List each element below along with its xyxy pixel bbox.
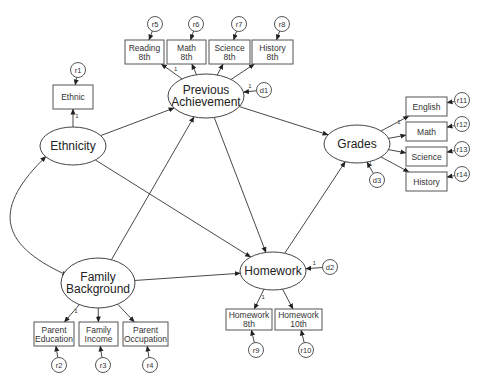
error-label-r4: r4	[147, 361, 154, 370]
observed-label-mathg-line: Math	[417, 127, 436, 137]
error-r4: r4	[143, 358, 158, 373]
disturbance-d1: d1	[257, 83, 272, 98]
observed-label-english: English	[413, 102, 441, 112]
observed-mathg: Math	[406, 122, 447, 141]
disturbance-label-text-d2: d2	[326, 263, 334, 272]
disturbance-label-text-d1: d1	[260, 86, 268, 95]
observed-label-finc: FamilyIncome	[85, 325, 113, 344]
error-path-r8	[277, 31, 280, 40]
disturbance-path-d2	[306, 268, 323, 269]
error-r11: r11	[455, 93, 470, 108]
observed-scienceg: Science	[406, 147, 447, 166]
loading-grades-to-historyg	[381, 157, 409, 172]
observed-reading8: Reading8th	[125, 40, 164, 64]
disturbance-label-d1: 1	[248, 83, 252, 89]
latent-label-ethnicity-line: Ethnicity	[50, 139, 95, 153]
disturbance-label-text-d3: d3	[373, 176, 381, 185]
observed-label-pocc-line: Occupation	[124, 334, 167, 344]
error-path-r10	[301, 330, 304, 343]
correlation-ethnicity-family	[10, 156, 68, 275]
error-label-r1: r1	[75, 66, 82, 75]
path-ethnicity-to-prev	[101, 108, 174, 136]
disturbance-d2: d2	[323, 260, 338, 275]
error-label-r2: r2	[56, 361, 63, 370]
observed-label-scienceg-line: Science	[411, 152, 442, 162]
observed-history8: History8th	[252, 40, 293, 64]
error-r13: r13	[455, 142, 470, 157]
observed-hw8: Homework8th	[226, 309, 272, 330]
loading-homework-to-hw10	[283, 289, 293, 309]
observed-label-historyg-line: History	[413, 177, 440, 187]
observed-label-history8-line: 8th	[267, 52, 279, 62]
observed-hw10: Homework10th	[275, 309, 322, 330]
error-r6: r6	[189, 17, 204, 32]
disturbance-label-d2: 1	[312, 260, 316, 266]
loading-fixed-label-english: 1	[397, 119, 401, 125]
latent-label-grades: Grades	[337, 137, 376, 151]
loading-grades-to-scienceg	[388, 150, 406, 153]
loading-family-to-pocc	[118, 304, 135, 322]
error-label-r11: r11	[457, 96, 467, 105]
error-r9: r9	[249, 343, 264, 358]
loading-fixed-label-reading8: 1	[174, 66, 178, 72]
nodes-layer: EthnicityPreviousAchievementFamilyBackgr…	[34, 17, 470, 373]
observed-label-hw8-line: 8th	[243, 319, 255, 329]
error-label-r7: r7	[236, 20, 243, 29]
error-r7: r7	[232, 17, 247, 32]
loading-prev-to-science8	[217, 64, 223, 75]
error-path-r1	[75, 77, 76, 85]
observed-label-scienceg: Science	[411, 152, 442, 162]
path-prev-to-homework	[214, 117, 266, 252]
error-path-r6	[191, 31, 194, 40]
loading-prev-to-reading8	[161, 64, 182, 79]
sem-diagram: 11111111 EthnicityPreviousAchievementFam…	[0, 0, 485, 390]
latent-label-prev-line: Achievement	[171, 95, 241, 109]
error-path-r2	[56, 346, 58, 358]
error-path-r14	[447, 176, 455, 178]
loading-prev-to-math8	[192, 64, 197, 75]
error-label-r6: r6	[193, 20, 200, 29]
latent-label-ethnicity: Ethnicity	[50, 139, 95, 153]
error-label-r5: r5	[152, 20, 159, 29]
latent-label-grades-line: Grades	[337, 137, 376, 151]
error-label-r12: r12	[457, 120, 468, 129]
error-path-r13	[447, 151, 455, 153]
error-r5: r5	[148, 17, 163, 32]
observed-label-science8-line: 8th	[224, 52, 236, 62]
latent-label-family-line: Background	[66, 282, 130, 296]
error-r2: r2	[52, 358, 67, 373]
error-path-r11	[447, 101, 455, 102]
observed-label-hw10-line: 10th	[290, 319, 307, 329]
observed-label-mathg: Math	[417, 127, 436, 137]
observed-historyg: History	[406, 172, 447, 191]
latent-label-homework-line: Homework	[244, 264, 302, 278]
observed-label-english-line: English	[413, 102, 441, 112]
error-label-r14: r14	[457, 170, 468, 179]
observed-pedu: ParentEducation	[34, 322, 74, 346]
disturbance-d3: d3	[370, 173, 385, 188]
observed-english: English	[406, 97, 447, 116]
path-family-to-prev	[111, 117, 193, 260]
latent-label-homework: Homework	[244, 264, 302, 278]
loading-fixed-label-ethnic: 1	[75, 113, 79, 119]
path-homework-to-grades	[285, 162, 346, 253]
error-path-r9	[251, 330, 254, 343]
path-prev-to-grades	[239, 107, 328, 135]
loading-fixed-label-pedu: 1	[74, 308, 78, 314]
error-path-r4	[147, 346, 149, 358]
path-family-to-homework	[135, 273, 240, 280]
observed-finc: FamilyIncome	[79, 322, 118, 346]
error-r10: r10	[299, 343, 314, 358]
error-path-r12	[447, 126, 455, 128]
error-label-r10: r10	[301, 346, 312, 355]
loading-grades-to-mathg	[388, 135, 406, 138]
error-r3: r3	[96, 358, 111, 373]
observed-ethnic: Ethnic	[53, 85, 93, 109]
error-r14: r14	[455, 167, 470, 182]
latent-grades: Grades	[324, 125, 390, 163]
path-ethnicity-to-homework	[95, 160, 250, 257]
error-path-r5	[149, 31, 152, 40]
error-label-r3: r3	[100, 361, 107, 370]
error-path-r3	[100, 346, 102, 358]
error-r8: r8	[275, 17, 290, 32]
